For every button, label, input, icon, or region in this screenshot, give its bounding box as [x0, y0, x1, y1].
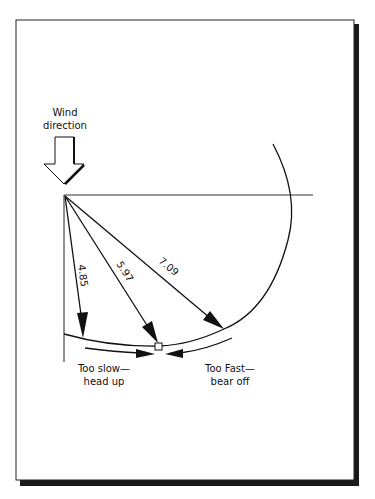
too-fast-note-line1: Too Fast—	[204, 363, 255, 374]
diagram-canvas: Wind direction 4.85 5.97 7.09 Too slow— …	[0, 0, 375, 499]
too-fast-note-line2: bear off	[211, 376, 251, 387]
wind-label-line1: Wind	[52, 107, 77, 118]
optimum-point-marker	[155, 343, 162, 350]
too-slow-note-line2: head up	[84, 376, 125, 387]
frame	[16, 20, 354, 480]
too-slow-note-line1: Too slow—	[77, 363, 130, 374]
wind-label-line2: direction	[43, 120, 87, 131]
